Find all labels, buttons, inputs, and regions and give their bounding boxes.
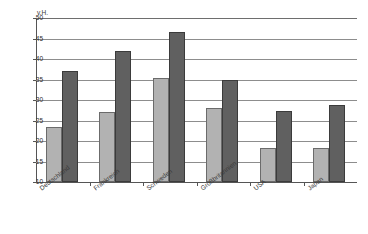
- bar: [169, 32, 185, 182]
- bar-group: [250, 18, 304, 182]
- y-tick-label-30: 30: [21, 97, 43, 104]
- bar-group: [143, 18, 197, 182]
- y-tick-label-35: 35: [21, 77, 43, 84]
- bar: [329, 105, 345, 182]
- bar-group: [90, 18, 144, 182]
- bar-group: [197, 18, 251, 182]
- y-tick-label-20: 20: [21, 138, 43, 145]
- bar: [115, 51, 131, 182]
- bar-group: [304, 18, 358, 182]
- bar-group: [36, 18, 90, 182]
- plot-area: [36, 18, 357, 183]
- y-tick-label-50: 50: [21, 15, 43, 22]
- bar: [276, 111, 292, 182]
- bar-chart: v.H. 101520253035404550 DeutschlandFrank…: [0, 0, 368, 234]
- bar: [153, 78, 169, 182]
- bar-groups: [36, 18, 357, 182]
- y-tick-label-25: 25: [21, 118, 43, 125]
- y-tick-label-45: 45: [21, 36, 43, 43]
- x-axis-labels: DeutschlandFrankreichSchwedenGroßbritann…: [36, 183, 357, 234]
- y-tick-label-15: 15: [21, 159, 43, 166]
- y-tick-label-40: 40: [21, 56, 43, 63]
